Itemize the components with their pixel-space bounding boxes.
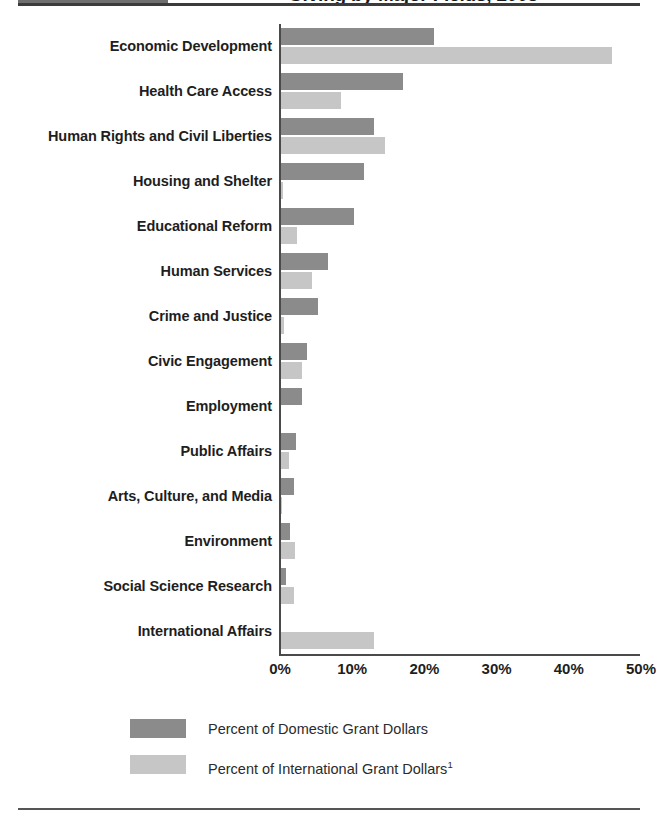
bar-international xyxy=(280,272,312,289)
bar-group xyxy=(280,69,657,114)
x-axis-tick: 20% xyxy=(394,660,454,677)
bar-chart-plot: Economic DevelopmentHealth Care AccessHu… xyxy=(0,24,657,669)
category-label: Human Rights and Civil Liberties xyxy=(0,114,272,159)
bar-domestic xyxy=(280,73,403,90)
bar-domestic xyxy=(280,298,318,315)
bar-row: Human Services xyxy=(0,249,657,294)
category-label: Arts, Culture, and Media xyxy=(0,474,272,519)
bar-group xyxy=(280,609,657,654)
bar-domestic xyxy=(280,433,296,450)
x-axis-tick: 30% xyxy=(467,660,527,677)
x-axis-tick: 0% xyxy=(250,660,310,677)
x-axis-tick: 10% xyxy=(322,660,382,677)
legend-footnote-marker: 1 xyxy=(447,759,452,770)
category-label: Environment xyxy=(0,519,272,564)
x-axis-tick-labels: 0%10%20%30%40%50% xyxy=(0,660,657,686)
x-axis-tick: 50% xyxy=(611,660,657,677)
bar-group xyxy=(280,249,657,294)
bar-group xyxy=(280,384,657,429)
bar-group xyxy=(280,474,657,519)
bar-international xyxy=(280,92,341,109)
category-label: Social Science Research xyxy=(0,564,272,609)
bar-row: Crime and Justice xyxy=(0,294,657,339)
bar-row: Health Care Access xyxy=(0,69,657,114)
category-label: Employment xyxy=(0,384,272,429)
category-label: Housing and Shelter xyxy=(0,159,272,204)
bar-domestic xyxy=(280,523,290,540)
bar-domestic xyxy=(280,208,354,225)
bar-domestic xyxy=(280,343,307,360)
legend-swatch-domestic xyxy=(130,719,186,738)
category-label: Crime and Justice xyxy=(0,294,272,339)
bar-domestic xyxy=(280,163,364,180)
x-axis-line xyxy=(279,654,640,656)
bar-international xyxy=(280,542,295,559)
bar-international xyxy=(280,587,294,604)
bar-row: Public Affairs xyxy=(0,429,657,474)
bar-group xyxy=(280,519,657,564)
bar-domestic xyxy=(280,253,328,270)
bar-domestic xyxy=(280,118,374,135)
legend-swatch-international xyxy=(130,755,186,774)
footer-divider xyxy=(18,808,640,810)
category-label: Public Affairs xyxy=(0,429,272,474)
bar-group xyxy=(280,429,657,474)
category-label: Educational Reform xyxy=(0,204,272,249)
bar-group xyxy=(280,294,657,339)
legend-label: Percent of Domestic Grant Dollars xyxy=(208,714,428,744)
legend-label: Percent of International Grant Dollars1 xyxy=(208,750,453,780)
bar-domestic xyxy=(280,28,434,45)
chart-legend: Percent of Domestic Grant DollarsPercent… xyxy=(0,714,657,784)
bar-row: Human Rights and Civil Liberties xyxy=(0,114,657,159)
bar-group xyxy=(280,204,657,249)
bar-group xyxy=(280,114,657,159)
bar-row: Arts, Culture, and Media xyxy=(0,474,657,519)
bar-row: Environment xyxy=(0,519,657,564)
bar-international xyxy=(280,227,297,244)
bar-row: International Affairs xyxy=(0,609,657,654)
x-axis-tick: 40% xyxy=(539,660,599,677)
category-label: Human Services xyxy=(0,249,272,294)
bar-row: Employment xyxy=(0,384,657,429)
bar-international xyxy=(280,452,289,469)
bar-group xyxy=(280,339,657,384)
category-label: International Affairs xyxy=(0,609,272,654)
chart-title-band: Giving by Major Fields, 2008 xyxy=(0,0,657,12)
y-axis-line xyxy=(279,24,281,654)
bar-international xyxy=(280,47,612,64)
title-divider xyxy=(18,3,640,6)
category-label: Health Care Access xyxy=(0,69,272,114)
bar-row: Educational Reform xyxy=(0,204,657,249)
bar-group xyxy=(280,564,657,609)
bar-domestic xyxy=(280,388,302,405)
bar-group xyxy=(280,24,657,69)
category-label: Civic Engagement xyxy=(0,339,272,384)
bar-domestic xyxy=(280,478,294,495)
bar-row: Civic Engagement xyxy=(0,339,657,384)
bar-row: Economic Development xyxy=(0,24,657,69)
bar-international xyxy=(280,137,385,154)
bar-row: Social Science Research xyxy=(0,564,657,609)
bar-row: Housing and Shelter xyxy=(0,159,657,204)
bar-international xyxy=(280,632,374,649)
bar-group xyxy=(280,159,657,204)
category-label: Economic Development xyxy=(0,24,272,69)
bar-international xyxy=(280,362,302,379)
